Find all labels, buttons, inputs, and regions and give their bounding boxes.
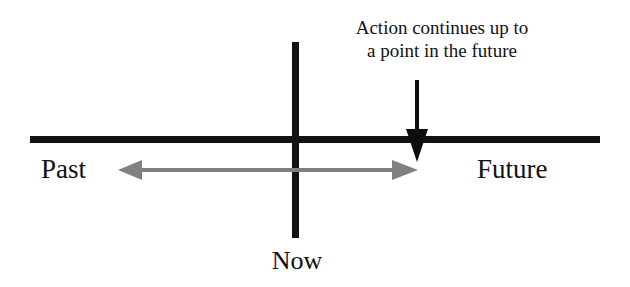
label-future: Future [477, 156, 548, 183]
span-arrow-left-head-icon [118, 160, 142, 180]
action-caption: Action continues up to a point in the fu… [302, 16, 582, 62]
label-past: Past [41, 156, 86, 183]
endpoint-pointer-arrow-icon [406, 80, 428, 162]
action-span-arrow-icon [118, 160, 418, 180]
action-caption-line-1: Action continues up to [302, 16, 582, 39]
label-now: Now [255, 248, 339, 274]
span-arrow-right-head-icon [392, 160, 418, 180]
action-caption-line-2: a point in the future [302, 39, 582, 62]
pointer-arrow-head-icon [406, 129, 428, 162]
timeline-diagram: Action continues up to a point in the fu… [0, 0, 630, 287]
